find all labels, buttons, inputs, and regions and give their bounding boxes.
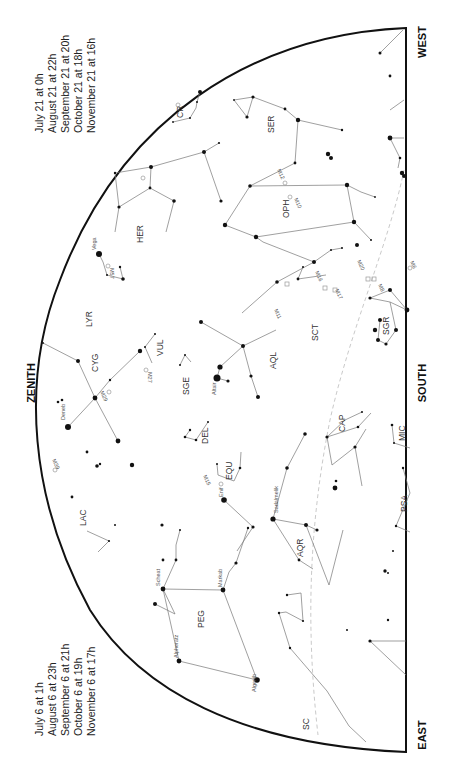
svg-text:CYG: CYG xyxy=(90,354,100,372)
svg-text:Enif: Enif xyxy=(218,487,224,497)
svg-text:November 21 at 16h: November 21 at 16h xyxy=(85,38,97,133)
svg-text:M6: M6 xyxy=(409,260,418,269)
svg-text:M29: M29 xyxy=(99,390,109,402)
svg-text:M27: M27 xyxy=(147,372,153,383)
svg-text:Sadalmelik: Sadalmelik xyxy=(273,486,279,513)
west-label: WEST xyxy=(416,26,428,58)
svg-text:LYR: LYR xyxy=(84,311,94,327)
svg-text:October 6 at 19h: October 6 at 19h xyxy=(72,658,84,736)
star-name-labels: Vega Deneb Altair Enif Sadalmelik Scheat… xyxy=(60,237,279,692)
svg-text:AQL: AQL xyxy=(268,352,278,369)
svg-text:VUL: VUL xyxy=(155,339,165,356)
svg-text:Alpheratz: Alpheratz xyxy=(173,635,179,658)
svg-text:M17: M17 xyxy=(334,288,344,300)
svg-text:Algenib: Algenib xyxy=(251,674,257,692)
south-label: SOUTH xyxy=(416,364,428,403)
svg-text:PEG: PEG xyxy=(196,610,206,628)
svg-text:SGR: SGR xyxy=(381,317,391,335)
svg-text:M11: M11 xyxy=(273,308,283,320)
svg-text:SER: SER xyxy=(266,116,276,133)
deep-sky-labels: M57 M27 M29 M39 M15 M11 M16 M17 M20 M8 M… xyxy=(51,168,418,486)
svg-text:M39: M39 xyxy=(51,458,61,470)
svg-text:Scheat: Scheat xyxy=(155,568,161,586)
svg-text:OPH: OPH xyxy=(281,200,291,218)
svg-text:M12: M12 xyxy=(276,168,286,180)
svg-text:Markab: Markab xyxy=(217,569,223,587)
svg-text:M8: M8 xyxy=(377,283,386,292)
svg-text:M15: M15 xyxy=(202,474,212,486)
svg-text:SCT: SCT xyxy=(310,324,320,341)
svg-text:November 6 at 17h: November 6 at 17h xyxy=(85,647,97,736)
svg-text:CAP: CAP xyxy=(337,414,347,432)
svg-text:October 21 at 18h: October 21 at 18h xyxy=(72,49,84,133)
svg-text:Vega: Vega xyxy=(91,237,97,250)
svg-text:September 6 at 21h: September 6 at 21h xyxy=(59,644,71,736)
svg-text:DEL: DEL xyxy=(200,427,210,444)
deep-sky-objects xyxy=(53,103,412,486)
sky-chart: ZENITH SOUTH WEST EAST July 21 at 0h Aug… xyxy=(0,0,452,765)
svg-text:M20: M20 xyxy=(356,259,366,271)
svg-text:M16: M16 xyxy=(314,270,324,282)
svg-text:EQU: EQU xyxy=(224,462,234,480)
svg-text:M10: M10 xyxy=(293,197,303,209)
svg-text:August 6 at 23h: August 6 at 23h xyxy=(46,662,58,736)
svg-text:M57: M57 xyxy=(109,268,115,279)
svg-text:SC: SC xyxy=(301,718,311,730)
svg-text:HER: HER xyxy=(135,225,145,243)
svg-text:Altair: Altair xyxy=(211,382,217,395)
svg-text:September 21 at 20h: September 21 at 20h xyxy=(59,35,71,133)
east-label: EAST xyxy=(416,720,428,750)
svg-text:LAC: LAC xyxy=(78,509,88,526)
svg-text:CR: CR xyxy=(175,106,185,118)
svg-text:July 6 at 1h: July 6 at 1h xyxy=(33,682,45,736)
time-table-top: July 21 at 0h August 21 at 22h September… xyxy=(33,35,97,133)
zenith-label: ZENITH xyxy=(25,363,37,403)
time-table-bottom: July 6 at 1h August 6 at 23h September 6… xyxy=(33,644,97,736)
svg-text:Deneb: Deneb xyxy=(60,404,66,420)
svg-text:SGE: SGE xyxy=(181,377,191,395)
svg-text:PSA: PSA xyxy=(399,495,409,512)
constellation-lines xyxy=(43,30,410,742)
constellation-labels: CR SER HER OPH LYR CYG VUL SGE AQL SCT S… xyxy=(78,106,409,730)
svg-text:July 21 at 0h: July 21 at 0h xyxy=(33,73,45,133)
svg-text:August 21 at 22h: August 21 at 22h xyxy=(46,53,58,133)
svg-text:MIC: MIC xyxy=(397,425,407,441)
svg-text:AQR: AQR xyxy=(295,539,305,557)
